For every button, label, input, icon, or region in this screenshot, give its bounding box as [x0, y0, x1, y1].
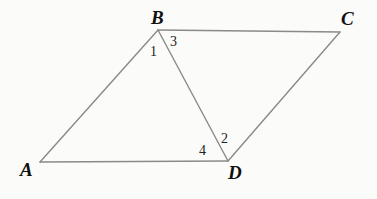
- side-CD: [228, 32, 340, 161]
- geometry-figure-page: A B C D 1 3 2 4: [0, 0, 377, 199]
- angle-label-2: 2: [221, 132, 228, 146]
- edge-group: [40, 30, 340, 162]
- angle-label-1: 1: [150, 45, 157, 59]
- side-DA: [40, 161, 228, 162]
- vertex-label-D: D: [228, 163, 242, 182]
- parallelogram-diagram: [0, 0, 377, 199]
- vertex-label-C: C: [341, 9, 354, 28]
- side-BC: [158, 30, 340, 32]
- side-AB: [40, 30, 158, 162]
- vertex-label-A: A: [20, 160, 33, 179]
- vertex-label-B: B: [151, 8, 164, 27]
- angle-label-3: 3: [170, 35, 177, 49]
- diagonal-BD: [158, 30, 228, 161]
- angle-label-4: 4: [199, 144, 206, 158]
